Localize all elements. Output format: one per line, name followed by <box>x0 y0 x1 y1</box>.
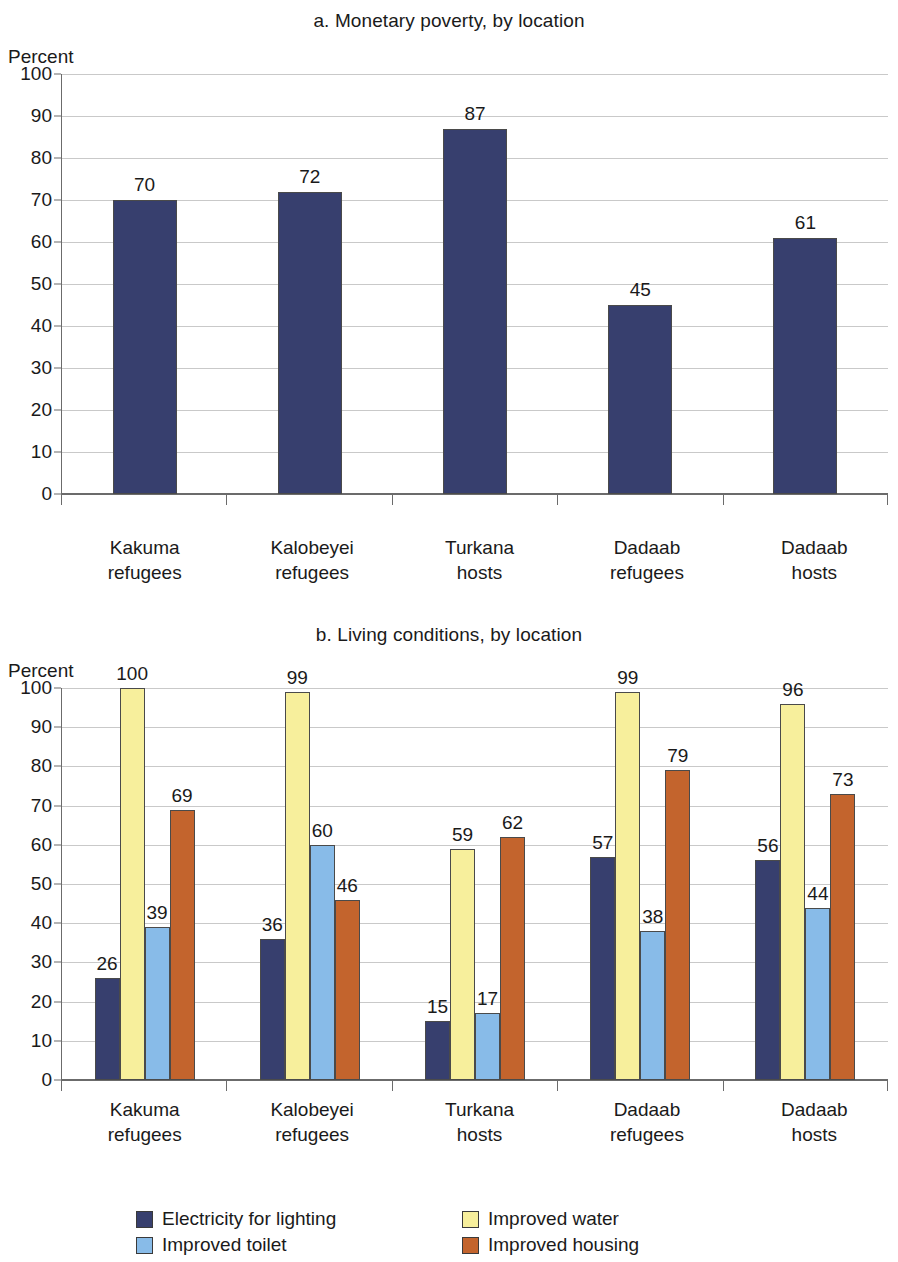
x-axis-category-label-line: refugees <box>563 1122 730 1147</box>
bar-group: 57993879 <box>558 688 723 1080</box>
bar-value-label: 17 <box>477 988 498 1010</box>
x-axis-tick-mark <box>61 494 226 505</box>
legend-item[interactable]: Electricity for lighting <box>136 1208 436 1230</box>
x-axis-tick-mark <box>557 1080 722 1091</box>
y-axis-tick-mark <box>54 116 61 117</box>
x-axis-category-label-line: Turkana <box>396 535 563 560</box>
x-axis-category-label: Dadaabhosts <box>731 535 898 585</box>
bar-value-label: 100 <box>116 663 148 685</box>
bar-value-label: 56 <box>757 835 778 857</box>
chart-b-x-ticks <box>61 1080 888 1091</box>
bar: 62 <box>500 837 525 1080</box>
bar-value-label: 38 <box>642 906 663 928</box>
x-axis-category-label-line: Kalobeyei <box>228 535 395 560</box>
chart-a-y-axis: 1009080706050403020100 <box>8 74 52 494</box>
y-axis-tick-mark <box>54 688 61 689</box>
bar: 57 <box>590 857 615 1080</box>
bar: 45 <box>608 305 672 494</box>
bar-value-label: 39 <box>147 902 168 924</box>
y-axis-tick-mark <box>54 410 61 411</box>
x-axis-category-label-line: Turkana <box>396 1097 563 1122</box>
bar-value-label: 36 <box>262 914 283 936</box>
bar: 70 <box>113 200 177 494</box>
chart-b-title: b. Living conditions, by location <box>0 600 898 646</box>
bar-value-label: 61 <box>795 212 816 234</box>
y-axis-tick-mark <box>54 368 61 369</box>
legend-item[interactable]: Improved toilet <box>136 1234 436 1256</box>
legend-row: Improved toiletImproved housing <box>136 1234 762 1256</box>
y-axis-tick-mark <box>54 326 61 327</box>
y-axis-tick-mark <box>54 74 61 75</box>
x-axis-category-label: Dadaabhosts <box>731 1097 898 1147</box>
y-axis-tick-mark <box>54 844 61 845</box>
x-axis-category-label-line: hosts <box>396 1122 563 1147</box>
bar: 96 <box>780 704 805 1080</box>
bar-value-label: 59 <box>452 824 473 846</box>
y-axis-tick-mark <box>54 962 61 963</box>
y-axis-tick-label: 90 <box>31 716 52 738</box>
x-axis-category-label-line: hosts <box>731 560 898 585</box>
y-axis-tick-label: 40 <box>31 912 52 934</box>
y-axis-tick-label: 50 <box>31 273 52 295</box>
bar: 87 <box>443 129 507 494</box>
bar: 99 <box>615 692 640 1080</box>
y-axis-tick-mark <box>54 494 61 495</box>
bar-value-label: 44 <box>807 883 828 905</box>
y-axis-tick-label: 60 <box>31 231 52 253</box>
legend-item[interactable]: Improved water <box>462 1208 762 1230</box>
bar: 61 <box>773 238 837 494</box>
x-axis-category-label: Kalobeyeirefugees <box>228 535 395 585</box>
bar-value-label: 99 <box>287 667 308 689</box>
chart-b-x-labels: KakumarefugeesKalobeyeirefugeesTurkanaho… <box>61 1097 898 1147</box>
y-axis-tick-mark <box>54 200 61 201</box>
x-axis-tick-mark <box>392 1080 557 1091</box>
y-axis-tick-mark <box>54 1040 61 1041</box>
y-axis-tick-mark <box>54 766 61 767</box>
y-axis-tick-label: 70 <box>31 189 52 211</box>
x-axis-category-label-line: refugees <box>61 560 228 585</box>
x-axis-tick-mark <box>226 494 391 505</box>
y-axis-tick-label: 20 <box>31 991 52 1013</box>
bar: 59 <box>450 849 475 1080</box>
legend-swatch-icon <box>136 1211 153 1228</box>
bar-group: 61 <box>723 74 888 494</box>
bar-group: 70 <box>62 74 227 494</box>
chart-b-plot-area: 2610039693699604615591762579938795696447… <box>61 688 888 1080</box>
legend-swatch-icon <box>462 1237 479 1254</box>
bar: 36 <box>260 939 285 1080</box>
bar-value-label: 57 <box>592 832 613 854</box>
chart-a-plot: 1009080706050403020100 7072874561 <box>8 74 888 494</box>
x-axis-category-label: Turkanahosts <box>396 535 563 585</box>
x-axis-category-label-line: Dadaab <box>563 535 730 560</box>
y-axis-tick-label: 70 <box>31 795 52 817</box>
bar: 15 <box>425 1021 450 1080</box>
x-axis-tick-mark <box>61 1080 226 1091</box>
chart-b-legend: Electricity for lightingImproved waterIm… <box>0 1208 898 1256</box>
x-axis-category-label-line: Kakuma <box>61 535 228 560</box>
x-axis-category-label-line: refugees <box>228 1122 395 1147</box>
bar-value-label: 87 <box>464 103 485 125</box>
chart-a-bars: 7072874561 <box>62 74 888 494</box>
legend-item[interactable]: Improved housing <box>462 1234 762 1256</box>
y-axis-tick-label: 30 <box>31 951 52 973</box>
chart-a-x-labels: KakumarefugeesKalobeyeirefugeesTurkanaho… <box>61 535 898 585</box>
x-axis-category-label: Turkanahosts <box>396 1097 563 1147</box>
y-axis-tick-label: 40 <box>31 315 52 337</box>
x-axis-category-label-line: hosts <box>731 1122 898 1147</box>
y-axis-tick-mark <box>54 158 61 159</box>
x-axis-category-label: Kakumarefugees <box>61 1097 228 1147</box>
y-axis-tick-mark <box>54 1001 61 1002</box>
bar-value-label: 46 <box>337 875 358 897</box>
bar: 38 <box>640 931 665 1080</box>
x-axis-category-label-line: refugees <box>563 560 730 585</box>
legend-swatch-icon <box>136 1237 153 1254</box>
chart-a-axis-unit: Percent <box>8 46 898 68</box>
bar: 17 <box>475 1013 500 1080</box>
chart-b-y-axis: 1009080706050403020100 <box>8 688 52 1080</box>
x-axis-category-label-line: Kakuma <box>61 1097 228 1122</box>
bar-value-label: 26 <box>97 953 118 975</box>
y-axis-tick-label: 10 <box>31 441 52 463</box>
legend-label: Improved toilet <box>162 1234 287 1256</box>
bar-value-label: 60 <box>312 820 333 842</box>
legend-swatch-icon <box>462 1211 479 1228</box>
